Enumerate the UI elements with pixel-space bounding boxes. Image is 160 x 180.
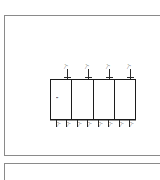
module-cell-3[interactable] <box>94 80 115 119</box>
dimension-label-bottom-2: —| <box>62 120 73 136</box>
sheet-stack: —| —| —| —| ▪▪ <box>0 0 160 180</box>
dimension-label-top-2: —| <box>78 65 100 79</box>
leader-tick-icon <box>85 77 92 78</box>
cell-annotation-label: ▪▪ <box>56 95 58 100</box>
module-cell-2[interactable] <box>72 80 93 119</box>
drawing-sheet-primary[interactable]: —| —| —| —| ▪▪ <box>4 15 160 156</box>
leader-tick-icon <box>127 77 134 78</box>
module-cell-1[interactable]: ▪▪ <box>51 80 72 119</box>
dimension-label-top-1: —| <box>57 65 79 79</box>
dimension-label-top-3: —| <box>99 65 121 79</box>
leader-tick-icon <box>106 77 113 78</box>
dimension-label-top-4: —| <box>120 65 142 79</box>
module-cell-4[interactable] <box>115 80 135 119</box>
module-cell-strip[interactable]: ▪▪ <box>50 79 136 120</box>
leader-tick-icon <box>64 77 71 78</box>
module-strip-drawing: —| —| —| —| ▪▪ <box>49 65 139 137</box>
drawing-sheet-secondary[interactable] <box>4 163 160 180</box>
dimension-label-bottom-6: —| <box>104 120 115 136</box>
dimension-label-bottom-4: —| <box>83 120 94 136</box>
dimension-label-bottom-8: —| <box>125 120 136 136</box>
